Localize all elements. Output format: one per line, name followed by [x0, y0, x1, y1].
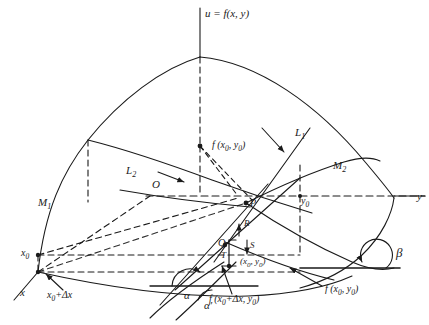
tangent-label-L1: L1	[294, 126, 305, 141]
angle-label-beta: β	[395, 245, 403, 260]
L2-pointer-arrow	[158, 172, 184, 182]
coord-label-y0: y0	[300, 195, 309, 209]
figure-canvas: u = f(x, y) y x M1 M2 L1 L2 O P Q R S T …	[0, 0, 429, 325]
value-label-point-x0-y0: (x0, y0)	[240, 256, 266, 269]
point-label-T: T	[221, 250, 227, 260]
dot-f-x0-y0	[198, 144, 203, 149]
value-label-f-x0-y0-right: f (x0, y0)	[325, 283, 359, 297]
tangent-label-L2: L2	[125, 164, 136, 179]
surface-label-M2: M2	[332, 159, 346, 174]
dot-x0-plus-dx	[36, 270, 40, 274]
surface-edge-left	[38, 57, 200, 272]
chord-line	[175, 178, 300, 290]
x-axis-label: x	[19, 286, 25, 298]
angle-label-alpha: α	[184, 289, 190, 301]
dot-P	[244, 201, 249, 206]
diagram-svg: u = f(x, y) y x M1 M2 L1 L2 O P Q R S T …	[0, 0, 429, 325]
dot-x0	[36, 253, 40, 257]
lower-projection-curve	[38, 272, 352, 296]
point-label-P: P	[249, 197, 256, 208]
dot-T	[227, 264, 231, 268]
value-label-f-x0-y0-top: f (x0, y0)	[212, 139, 246, 153]
point-label-O: O	[152, 178, 160, 190]
y-axis-label: y	[416, 190, 422, 202]
u-axis-label: u = f(x, y)	[205, 7, 249, 20]
base-edge-origin-to-O	[38, 196, 150, 272]
dash-fxy-to-base	[200, 146, 238, 196]
leader-f-x0-y0-right	[290, 268, 322, 286]
angle-label-alpha-prime: α′	[204, 299, 213, 311]
coord-label-x0-plus-dx: x0+Δx	[46, 289, 73, 303]
value-label-f-x0dx-y0: f (x0+Δx, y0)	[209, 293, 260, 307]
point-label-Q: Q	[218, 237, 226, 248]
L1-pointer-arrow	[262, 128, 284, 152]
x-axis-line	[14, 272, 38, 300]
tangent-line-L2	[120, 190, 250, 207]
beta-angle-arc	[360, 239, 392, 268]
coord-label-x0: x0	[20, 247, 29, 261]
surface-label-M1: M1	[37, 196, 51, 211]
point-label-S: S	[250, 240, 255, 250]
base-diagonal-x0	[38, 198, 238, 255]
point-label-R: R	[243, 218, 250, 228]
